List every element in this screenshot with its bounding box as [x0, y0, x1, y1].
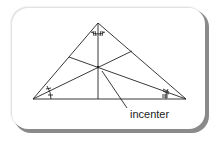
incenter-point	[97, 66, 99, 68]
tick	[100, 31, 101, 36]
bisector-right	[69, 57, 186, 99]
triangle-diagram	[0, 0, 217, 141]
tick	[102, 31, 103, 36]
tick	[93, 31, 94, 36]
tick	[95, 31, 96, 36]
incenter-label: incenter	[130, 108, 169, 120]
tick	[46, 88, 51, 89]
bisector-left	[33, 51, 132, 99]
